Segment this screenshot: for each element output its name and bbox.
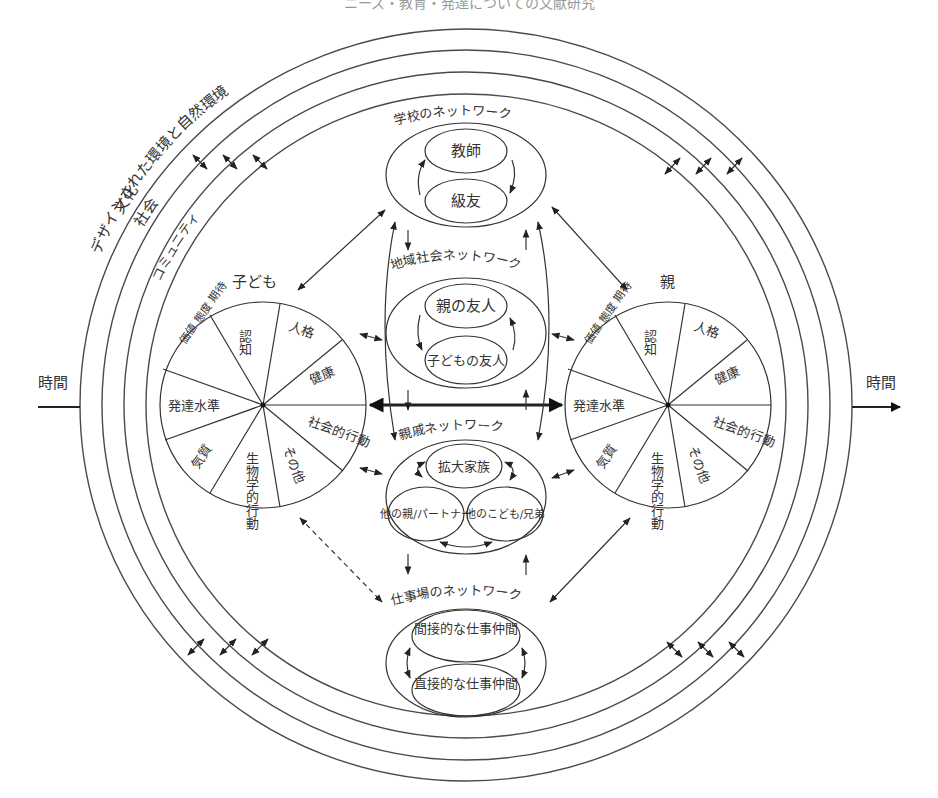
child-seg-personality: 人格: [287, 319, 317, 342]
school-network: 学校のネットワーク 教師 級友: [386, 103, 546, 227]
child-seg-social-behavior: 社会的行動: [306, 414, 372, 450]
work-network: 仕事場のネットワーク 間接的な仕事仲間 直接的な仕事仲間: [386, 583, 546, 717]
kin-member-other-children: 他のこども/兄弟: [465, 508, 546, 521]
kin-network-title: 親戚ネットワーク: [397, 417, 505, 442]
work-member-direct: 直接的な仕事仲間: [414, 676, 518, 691]
child-seg-temperament: 気質: [188, 442, 215, 472]
time-label-left: 時間: [38, 374, 68, 392]
parent-seg-other: その他: [685, 444, 712, 486]
parent-seg-developmental-level: 発達水準: [573, 398, 625, 413]
kin-member-extended-family: 拡大家族: [438, 459, 490, 474]
kin-network: 親戚ネットワーク 拡大家族 他の親/パートナー 他のこども/兄弟: [380, 417, 546, 554]
work-member-indirect: 間接的な仕事仲間: [414, 621, 518, 636]
child-seg-other: その他: [280, 444, 307, 486]
child-seg-cognition: 認知: [238, 329, 253, 356]
child-seg-developmental-level: 発達水準: [168, 398, 220, 413]
child-seg-biological-behavior: 生物学的行動: [245, 452, 260, 531]
time-label-right: 時間: [866, 374, 896, 392]
kin-member-other-parent: 他の親/パートナー: [380, 508, 472, 521]
community-member-childs-friends: 子どもの友人: [427, 353, 505, 368]
school-member-teacher: 教師: [451, 142, 481, 160]
ring-label-environment: デザインされた環境と自然環境: [87, 82, 232, 257]
community-network-title: 地域社会ネットワーク: [389, 247, 524, 273]
parent-seg-biological-behavior: 生物学的行動: [650, 452, 665, 531]
child-wheel: 子ども 認知 人格 健康 社会的行動 その他 生物学的行動 気質 発達水準 価値…: [160, 273, 372, 531]
work-network-title: 仕事場のネットワーク: [389, 583, 523, 608]
ecological-model-diagram: ニーズ・教育・発達についての文献研究 デザインされた環境と自然環境 文化 社会 …: [0, 0, 938, 798]
parent-title: 親: [660, 273, 675, 291]
parent-seg-social-behavior: 社会的行動: [711, 414, 777, 450]
parent-seg-health: 健康: [712, 363, 742, 388]
community-member-parents-friends: 親の友人: [436, 297, 496, 315]
parent-seg-cognition: 認知: [643, 329, 658, 356]
school-member-classmates: 級友: [451, 192, 481, 210]
parent-seg-temperament: 気質: [593, 442, 620, 472]
parent-wheel: 親 認知 人格 健康 社会的行動 その他 生物学的行動 気質 発達水準 価値 態…: [565, 273, 777, 531]
parent-seg-personality: 人格: [692, 319, 722, 342]
child-title: 子ども: [232, 273, 277, 291]
child-seg-values: 価値 態度 期待: [176, 279, 229, 347]
community-network: 地域社会ネットワーク 親の友人 子どもの友人: [386, 247, 546, 388]
page-title-partial: ニーズ・教育・発達についての文献研究: [344, 0, 595, 11]
child-seg-health: 健康: [307, 363, 337, 388]
